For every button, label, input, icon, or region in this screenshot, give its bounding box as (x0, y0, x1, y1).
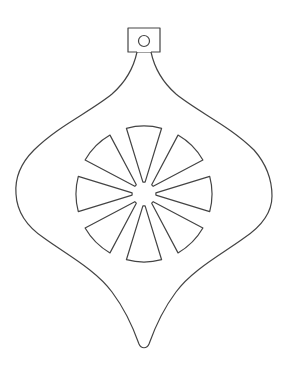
hanger-hole-icon (139, 36, 150, 47)
ornament-drawing (0, 0, 288, 377)
ornament-canvas (0, 0, 288, 377)
ornament-body-outline (16, 52, 272, 348)
